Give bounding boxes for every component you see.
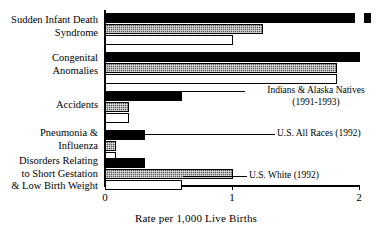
bar-accidents-indians-alaska-natives	[105, 91, 182, 101]
category-label-accidents: Accidents	[56, 99, 98, 112]
x-axis-title: Rate per 1,000 Live Births	[0, 212, 392, 224]
x-tick-label-2: 2	[349, 191, 369, 203]
x-tick-1	[232, 186, 233, 190]
category-label-sudden-infant-death-syndrome: Sudden Infant Death Syndrome	[11, 14, 98, 39]
bar-gestation-indians-alaska-natives	[105, 158, 145, 168]
bar-congenital-indians-alaska-natives	[105, 52, 360, 62]
annotation-indians-alaska-natives: Indians & Alaska Natives (1991-1993)	[245, 85, 387, 108]
leader-line-us-all-races	[140, 134, 275, 135]
annotation-us-all-races: U.S. All Races (1992)	[277, 128, 361, 140]
bar-accidents-us-all-races	[105, 102, 129, 112]
bar-accidents-us-white	[105, 113, 129, 123]
bar-sids-us-all-races	[105, 24, 263, 34]
x-tick-label-1: 1	[222, 191, 242, 203]
bar-congenital-us-white	[105, 74, 337, 84]
category-label-congenital-anomalies: Congenital Anomalies	[52, 52, 98, 77]
bar-pneumonia-indians-alaska-natives	[105, 130, 145, 140]
category-label-disorders-short-gestation: Disorders Relating to Short Gestation & …	[11, 155, 98, 193]
x-tick-label-0: 0	[95, 191, 115, 203]
leader-line-indians-alaska-natives	[181, 91, 245, 92]
leader-line-us-white	[183, 176, 247, 177]
bar-gestation-us-white	[105, 180, 182, 190]
x-tick-2	[359, 186, 360, 190]
bar-sids-indians-alaska-natives-overflow-marker	[364, 13, 371, 23]
bar-gestation-us-all-races	[105, 169, 233, 179]
bar-pneumonia-us-all-races	[105, 141, 116, 151]
bar-congenital-us-all-races	[105, 63, 337, 73]
bar-sids-indians-alaska-natives	[105, 13, 355, 23]
category-label-pneumonia-and-influenza: Pneumonia & Influenza	[40, 127, 98, 152]
annotation-us-white: U.S. White (1992)	[249, 170, 319, 182]
bar-sids-us-white	[105, 35, 233, 45]
bar-chart: Sudden Infant Death Syndrome Congenital …	[0, 0, 392, 237]
